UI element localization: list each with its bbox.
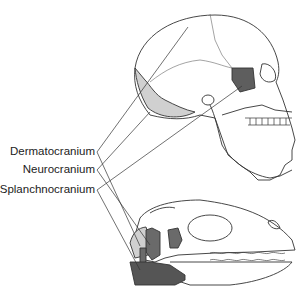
reptile-skull	[130, 200, 295, 285]
label-splanchnocranium: Splanchnocranium	[0, 183, 95, 195]
human-skull	[135, 14, 295, 180]
skull-components-diagram: Dermatocranium Neurocranium Splanchnocra…	[0, 0, 301, 294]
label-dermatocranium: Dermatocranium	[10, 145, 95, 157]
label-neurocranium: Neurocranium	[23, 163, 95, 175]
